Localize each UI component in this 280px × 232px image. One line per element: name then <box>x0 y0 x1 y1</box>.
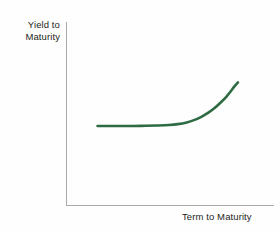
plot-area <box>0 0 280 232</box>
yield-curve-chart: Yield to Maturity Term to Maturity <box>0 0 280 232</box>
x-axis-label: Term to Maturity <box>182 211 252 223</box>
yield-curve-line <box>98 82 238 126</box>
